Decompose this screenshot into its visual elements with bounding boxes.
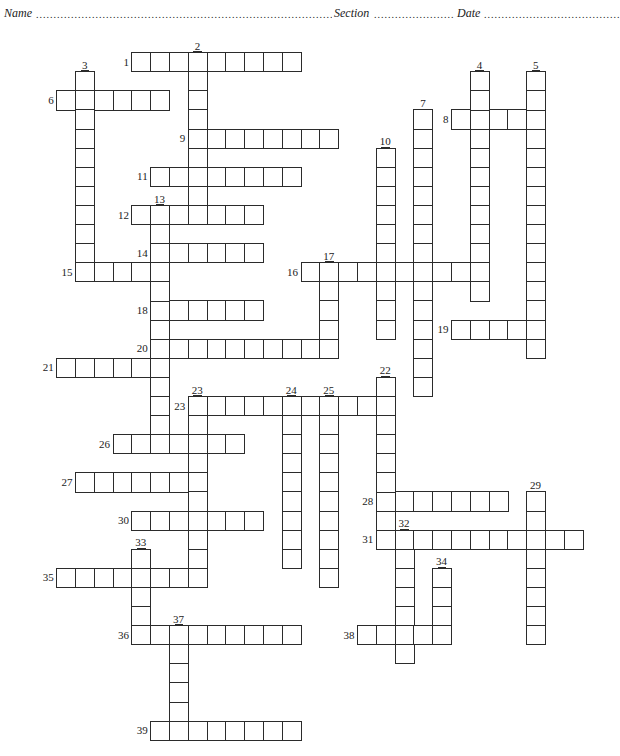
grid-cell[interactable] <box>338 262 358 282</box>
grid-cell[interactable] <box>113 358 133 378</box>
grid-cell[interactable] <box>319 491 339 511</box>
grid-cell[interactable] <box>56 90 76 110</box>
grid-cell[interactable] <box>244 129 264 149</box>
grid-cell[interactable] <box>75 262 95 282</box>
grid-cell[interactable] <box>188 129 208 149</box>
grid-cell[interactable] <box>188 167 208 187</box>
grid-cell[interactable] <box>526 129 546 149</box>
grid-cell[interactable] <box>244 339 264 359</box>
grid-cell[interactable] <box>169 205 189 225</box>
grid-cell[interactable] <box>75 568 95 588</box>
grid-cell[interactable] <box>225 243 245 263</box>
grid-cell[interactable] <box>489 109 509 129</box>
grid-cell[interactable] <box>432 606 452 626</box>
grid-cell[interactable] <box>376 415 396 435</box>
grid-cell[interactable] <box>244 205 264 225</box>
grid-cell[interactable] <box>413 625 433 645</box>
grid-cell[interactable] <box>263 721 283 741</box>
grid-cell[interactable] <box>526 587 546 607</box>
grid-cell[interactable] <box>319 434 339 454</box>
grid-cell[interactable] <box>282 434 302 454</box>
grid-cell[interactable] <box>150 472 170 492</box>
grid-cell[interactable] <box>56 568 76 588</box>
grid-cell[interactable] <box>169 568 189 588</box>
grid-cell[interactable] <box>169 472 189 492</box>
grid-cell[interactable] <box>131 625 151 645</box>
grid-cell[interactable] <box>376 453 396 473</box>
grid-cell[interactable] <box>413 339 433 359</box>
grid-cell[interactable] <box>225 300 245 320</box>
grid-cell[interactable] <box>244 167 264 187</box>
grid-cell[interactable] <box>263 625 283 645</box>
grid-cell[interactable] <box>413 320 433 340</box>
grid-cell[interactable] <box>432 491 452 511</box>
grid-cell[interactable] <box>207 167 227 187</box>
grid-cell[interactable] <box>169 721 189 741</box>
grid-cell[interactable] <box>376 625 396 645</box>
grid-cell[interactable] <box>470 186 490 206</box>
grid-cell[interactable] <box>376 434 396 454</box>
grid-cell[interactable] <box>526 109 546 129</box>
grid-cell[interactable] <box>376 186 396 206</box>
grid-cell[interactable] <box>169 702 189 722</box>
grid-cell[interactable] <box>207 434 227 454</box>
grid-cell[interactable] <box>395 625 415 645</box>
grid-cell[interactable] <box>188 300 208 320</box>
grid-cell[interactable] <box>526 224 546 244</box>
grid-cell[interactable] <box>413 205 433 225</box>
grid-cell[interactable] <box>169 511 189 531</box>
grid-cell[interactable] <box>94 358 114 378</box>
grid-cell[interactable] <box>376 511 396 531</box>
grid-cell[interactable] <box>263 339 283 359</box>
grid-cell[interactable] <box>207 339 227 359</box>
grid-cell[interactable] <box>526 339 546 359</box>
grid-cell[interactable] <box>169 434 189 454</box>
grid-cell[interactable] <box>207 300 227 320</box>
grid-cell[interactable] <box>564 530 584 550</box>
grid-cell[interactable] <box>301 396 321 416</box>
grid-cell[interactable] <box>282 511 302 531</box>
grid-cell[interactable] <box>432 262 452 282</box>
grid-cell[interactable] <box>188 339 208 359</box>
grid-cell[interactable] <box>244 52 264 72</box>
grid-cell[interactable] <box>131 262 151 282</box>
grid-cell[interactable] <box>470 109 490 129</box>
grid-cell[interactable] <box>225 511 245 531</box>
grid-cell[interactable] <box>282 472 302 492</box>
grid-cell[interactable] <box>169 663 189 683</box>
grid-cell[interactable] <box>169 300 189 320</box>
grid-cell[interactable] <box>75 205 95 225</box>
grid-cell[interactable] <box>526 300 546 320</box>
grid-cell[interactable] <box>376 530 396 550</box>
grid-cell[interactable] <box>395 491 415 511</box>
grid-cell[interactable] <box>432 587 452 607</box>
grid-cell[interactable] <box>526 148 546 168</box>
grid-cell[interactable] <box>207 205 227 225</box>
grid-cell[interactable] <box>188 186 208 206</box>
grid-cell[interactable] <box>376 472 396 492</box>
grid-cell[interactable] <box>319 320 339 340</box>
grid-cell[interactable] <box>225 339 245 359</box>
grid-cell[interactable] <box>131 90 151 110</box>
grid-cell[interactable] <box>395 644 415 664</box>
grid-cell[interactable] <box>319 281 339 301</box>
grid-cell[interactable] <box>150 205 170 225</box>
grid-cell[interactable] <box>131 472 151 492</box>
grid-cell[interactable] <box>282 167 302 187</box>
grid-cell[interactable] <box>188 453 208 473</box>
grid-cell[interactable] <box>131 434 151 454</box>
grid-cell[interactable] <box>376 224 396 244</box>
grid-cell[interactable] <box>282 721 302 741</box>
grid-cell[interactable] <box>75 243 95 263</box>
grid-cell[interactable] <box>188 396 208 416</box>
grid-cell[interactable] <box>169 243 189 263</box>
grid-cell[interactable] <box>470 71 490 91</box>
grid-cell[interactable] <box>169 167 189 187</box>
grid-cell[interactable] <box>319 339 339 359</box>
grid-cell[interactable] <box>526 491 546 511</box>
grid-cell[interactable] <box>413 358 433 378</box>
grid-cell[interactable] <box>282 339 302 359</box>
grid-cell[interactable] <box>150 377 170 397</box>
grid-cell[interactable] <box>526 281 546 301</box>
grid-cell[interactable] <box>225 129 245 149</box>
